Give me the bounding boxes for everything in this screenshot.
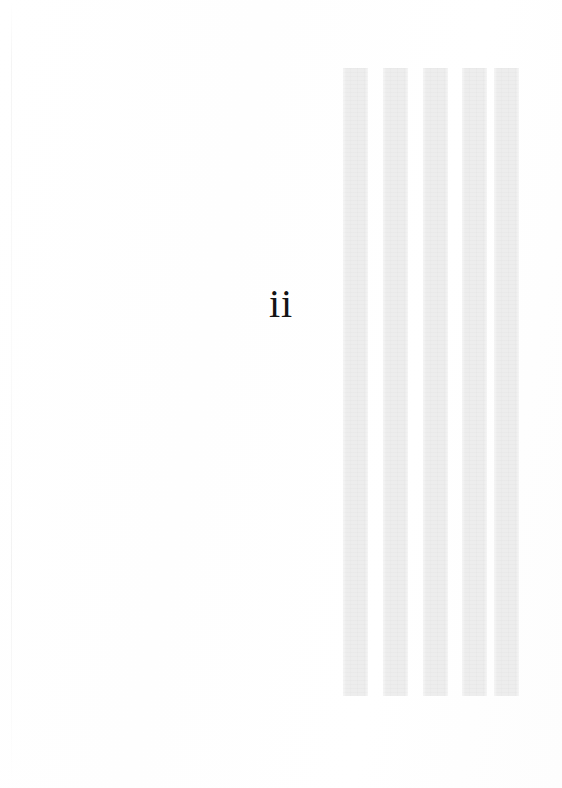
grey-bar [462, 68, 487, 696]
grey-bar [423, 68, 448, 696]
grey-bar [383, 68, 408, 696]
scanned-page: ii [0, 0, 562, 788]
left-scan-seam [11, 0, 12, 788]
grey-bar [494, 68, 519, 696]
vertical-grey-bars [343, 68, 519, 696]
grey-bar [343, 68, 368, 696]
